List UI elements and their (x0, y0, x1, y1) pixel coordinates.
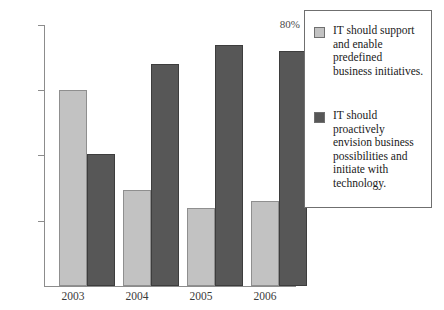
legend-label-series-1: IT should support and enable predefined … (333, 24, 429, 78)
legend-swatch-icon-series-2 (314, 112, 325, 123)
x-axis-label-2006: 2006 (223, 290, 307, 303)
legend-label-line: envision business (333, 136, 429, 150)
bar-group-2004 (123, 25, 179, 286)
legend-label-line: initiate with (333, 163, 429, 177)
legend-entry-series-2: IT should proactively envision business … (314, 109, 429, 191)
x-axis-line (44, 286, 296, 287)
legend-label-line: IT should support (333, 24, 429, 38)
y-tick-mark-80 (38, 25, 44, 26)
legend-label-line: proactively (333, 123, 429, 137)
plot-area: 80% 60% 40% 20% 2003 2004 2005 2006 (0, 0, 300, 310)
legend-label-line: predefined (333, 51, 429, 65)
chart-legend: IT should support and enable predefined … (304, 10, 432, 208)
y-tick-mark-20 (38, 221, 44, 222)
legend-label-line: technology. (333, 177, 429, 191)
bar-group-2003 (59, 25, 115, 286)
bar-2005-series-2 (215, 45, 243, 286)
legend-entry-series-1: IT should support and enable predefined … (314, 24, 429, 78)
bar-2006-series-1 (251, 201, 279, 286)
y-tick-mark-40 (38, 155, 44, 156)
legend-label-series-2: IT should proactively envision business … (333, 109, 429, 191)
bar-chart: 80% 60% 40% 20% 2003 2004 2005 2006 IT s… (0, 0, 444, 310)
bar-2003-series-1 (59, 90, 87, 286)
y-tick-mark-60 (38, 90, 44, 91)
bar-group-2006 (251, 25, 307, 286)
bar-2006-series-2 (279, 51, 307, 286)
legend-swatch-icon-series-1 (314, 27, 325, 38)
legend-label-line: business initiatives. (333, 65, 429, 79)
bars-layer (45, 25, 296, 286)
bar-2003-series-2 (87, 154, 115, 286)
bar-group-2005 (187, 25, 243, 286)
legend-label-line: possibilities and (333, 150, 429, 164)
bar-2004-series-1 (123, 190, 151, 286)
legend-label-line: and enable (333, 38, 429, 52)
bar-2005-series-1 (187, 208, 215, 286)
legend-label-line: IT should (333, 109, 429, 123)
bar-2004-series-2 (151, 64, 179, 286)
